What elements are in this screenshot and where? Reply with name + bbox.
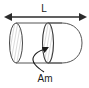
figure-container: L Am <box>0 0 89 88</box>
length-dimension-label: L <box>41 3 47 14</box>
capsule-diagram-svg: L Am <box>0 0 89 88</box>
midsection-area-label: Am <box>38 73 53 84</box>
left-end-ellipse <box>10 23 23 63</box>
midsection-ellipse <box>43 23 54 63</box>
